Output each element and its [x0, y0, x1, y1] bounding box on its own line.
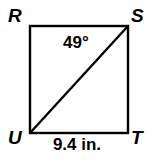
vertex-label-r: R [8, 6, 22, 25]
side-length-label: 9.4 in. [0, 136, 154, 153]
angle-measure-label: 49° [63, 34, 89, 51]
vertex-label-s: S [131, 6, 144, 25]
geometry-figure: R S T U 49° 9.4 in. [0, 0, 154, 160]
